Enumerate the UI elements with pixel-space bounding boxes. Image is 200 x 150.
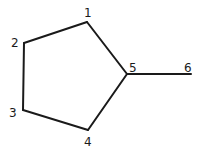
atom-label-6: 6 [184,61,192,75]
atom-label-4: 4 [84,135,92,149]
bond-5-1 [87,22,127,74]
atom-label-1: 1 [84,6,92,20]
bond-2-3 [23,43,24,110]
bond-1-2 [24,22,87,43]
atom-label-5: 5 [129,61,137,75]
atom-label-2: 2 [11,36,19,50]
bond-3-4 [23,110,88,130]
bonds [23,22,191,130]
atom-labels: 1 2 3 4 5 6 [9,6,192,149]
bond-4-5 [88,74,127,130]
atom-label-3: 3 [9,106,17,120]
ring-diagram: 1 2 3 4 5 6 [0,0,200,150]
